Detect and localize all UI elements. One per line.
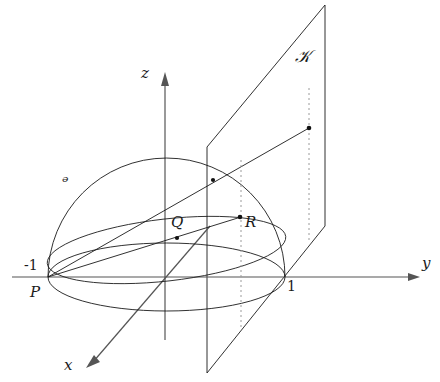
marked-points-group (175, 126, 311, 240)
hemisphere-u-group (48, 158, 285, 311)
point-label-q: Q (171, 215, 183, 230)
point-dot-r (238, 215, 243, 220)
plane-k-top-edge (207, 5, 325, 147)
axis-label-y: y (422, 256, 430, 271)
set-label-k: 𝒦 (295, 48, 311, 65)
y-axis-arrowhead (408, 273, 420, 281)
dotted-guides-group (241, 88, 309, 330)
tick-label-one: 1 (287, 279, 296, 293)
ray-p-to-r-through-q (48, 217, 241, 277)
point-dot-on-sphere (211, 178, 215, 182)
point-dot-q (175, 236, 179, 240)
x-axis-line (93, 226, 210, 362)
point-dot-on-plane (307, 126, 312, 131)
z-axis-arrowhead (161, 72, 169, 86)
axes-group (12, 72, 420, 368)
axis-label-z: z (141, 66, 149, 81)
tick-label-minus-one: -1 (24, 258, 38, 272)
axis-label-x: x (64, 358, 72, 373)
set-label-u: ᵊ (62, 174, 69, 191)
point-label-p: P (30, 285, 40, 300)
plane-k-bottom-edge (207, 226, 325, 373)
point-label-r: R (245, 215, 256, 230)
geometry-figure: y z x -1 1 ᵊ 𝒦 P Q R (0, 0, 440, 382)
